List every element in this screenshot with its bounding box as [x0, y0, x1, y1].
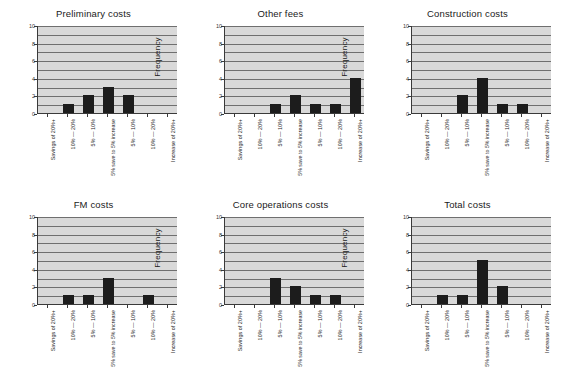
plot-area — [411, 26, 551, 114]
y-tick-label: 4 — [406, 76, 409, 82]
bar — [457, 295, 468, 304]
x-tick-labels: Savings of 20%+10% — 20%5% — 10%5% save … — [37, 119, 177, 185]
x-tick-label: 5% save to 5% increase — [110, 119, 116, 176]
x-tick-labels: Savings of 20%+10% — 20%5% — 10%5% save … — [411, 119, 551, 185]
x-tick-mark — [87, 305, 88, 308]
x-tick-mark — [541, 305, 542, 308]
chart-panel: Construction costsFrequency0246810Saving… — [374, 0, 561, 191]
x-tick-mark — [167, 114, 168, 117]
chart-panel: Total costsFrequency0246810Savings of 20… — [374, 191, 561, 382]
x-tick-labels: Savings of 20%+10% — 20%5% — 10%5% save … — [411, 310, 551, 376]
y-tick-label: 4 — [219, 267, 222, 273]
x-tick-mark — [481, 114, 482, 117]
x-tick-mark — [254, 114, 255, 117]
y-tick-label: 0 — [406, 302, 409, 308]
y-tick-label: 8 — [219, 41, 222, 47]
y-tick-labels: 0246810 — [21, 211, 37, 311]
chart-title: FM costs — [0, 199, 187, 210]
y-tick-label: 8 — [32, 232, 35, 238]
x-tick-labels: Savings of 20%+10% — 20%5% — 10%5% save … — [37, 310, 177, 376]
x-tick-marks — [37, 114, 177, 117]
x-tick-label: 5% — 10% — [130, 119, 136, 146]
bar — [83, 295, 94, 304]
x-tick-mark — [234, 114, 235, 117]
y-tick-label: 10 — [29, 214, 35, 220]
x-tick-label: 5% — 10% — [130, 310, 136, 337]
y-tick-label: 2 — [406, 284, 409, 290]
x-tick-mark — [541, 114, 542, 117]
x-tick-label: Savings of 20%+ — [50, 310, 56, 351]
y-tick-label: 10 — [216, 23, 222, 29]
y-tick-label: 2 — [219, 284, 222, 290]
x-tick-mark — [294, 114, 295, 117]
chart-title: Core operations costs — [187, 199, 374, 210]
y-tick-label: 6 — [32, 58, 35, 64]
x-tick-label: 5% — 10% — [317, 310, 323, 337]
x-tick-mark — [501, 114, 502, 117]
bar — [477, 260, 488, 304]
plot-background — [411, 217, 551, 305]
x-tick-label: Increase of 20%+ — [357, 119, 363, 162]
y-tick-label: 2 — [219, 93, 222, 99]
x-tick-mark — [314, 114, 315, 117]
bar — [350, 78, 361, 113]
bar — [103, 87, 114, 113]
y-tick-labels: 0246810 — [395, 211, 411, 311]
x-tick-label: Savings of 20%+ — [424, 119, 430, 160]
x-tick-label: 5% — 10% — [277, 310, 283, 337]
x-tick-labels: Savings of 20%+10% — 20%5% — 10%5% save … — [224, 310, 364, 376]
x-tick-label: Increase of 20%+ — [544, 310, 550, 353]
y-tick-label: 0 — [32, 302, 35, 308]
x-tick-mark — [521, 305, 522, 308]
x-tick-label: 10% — 20% — [150, 119, 156, 149]
x-tick-label: 5% save to 5% increase — [297, 310, 303, 367]
x-tick-label: 5% — 10% — [504, 119, 510, 146]
x-tick-mark — [67, 114, 68, 117]
x-tick-mark — [501, 305, 502, 308]
bar — [437, 295, 448, 304]
bar-series — [412, 26, 551, 113]
y-tick-label: 10 — [403, 23, 409, 29]
y-tick-label: 10 — [403, 214, 409, 220]
x-tick-mark — [481, 305, 482, 308]
x-tick-label: 5% — 10% — [317, 119, 323, 146]
x-tick-label: Savings of 20%+ — [424, 310, 430, 351]
x-tick-label: 5% save to 5% increase — [484, 310, 490, 367]
x-tick-label: Increase of 20%+ — [357, 310, 363, 353]
x-tick-label: 10% — 20% — [257, 310, 263, 340]
bar — [123, 95, 134, 113]
y-axis-label: Frequency — [340, 22, 350, 92]
x-tick-mark — [334, 305, 335, 308]
x-tick-mark — [87, 114, 88, 117]
bar — [63, 295, 74, 304]
x-tick-label: 10% — 20% — [257, 119, 263, 149]
y-tick-labels: 0246810 — [21, 20, 37, 120]
x-tick-mark — [334, 114, 335, 117]
y-tick-label: 10 — [216, 214, 222, 220]
x-tick-mark — [441, 114, 442, 117]
x-tick-label: 5% — 10% — [90, 119, 96, 146]
bar — [330, 295, 341, 304]
x-tick-label: 5% save to 5% increase — [110, 310, 116, 367]
bar — [143, 295, 154, 304]
y-tick-label: 0 — [219, 111, 222, 117]
x-tick-marks — [411, 305, 551, 308]
x-tick-label: 10% — 20% — [444, 310, 450, 340]
x-tick-marks — [411, 114, 551, 117]
y-tick-label: 6 — [406, 58, 409, 64]
x-tick-marks — [37, 305, 177, 308]
x-tick-label: Savings of 20%+ — [237, 119, 243, 160]
y-tick-label: 0 — [219, 302, 222, 308]
x-tick-label: Savings of 20%+ — [237, 310, 243, 351]
x-tick-mark — [147, 114, 148, 117]
y-tick-label: 0 — [406, 111, 409, 117]
bar — [63, 104, 74, 113]
y-tick-label: 2 — [32, 284, 35, 290]
bar — [497, 286, 508, 304]
y-tick-label: 4 — [32, 76, 35, 82]
bar — [330, 104, 341, 113]
x-tick-mark — [441, 305, 442, 308]
x-tick-mark — [421, 114, 422, 117]
x-tick-label: 5% save to 5% increase — [484, 119, 490, 176]
x-tick-label: 10% — 20% — [524, 310, 530, 340]
